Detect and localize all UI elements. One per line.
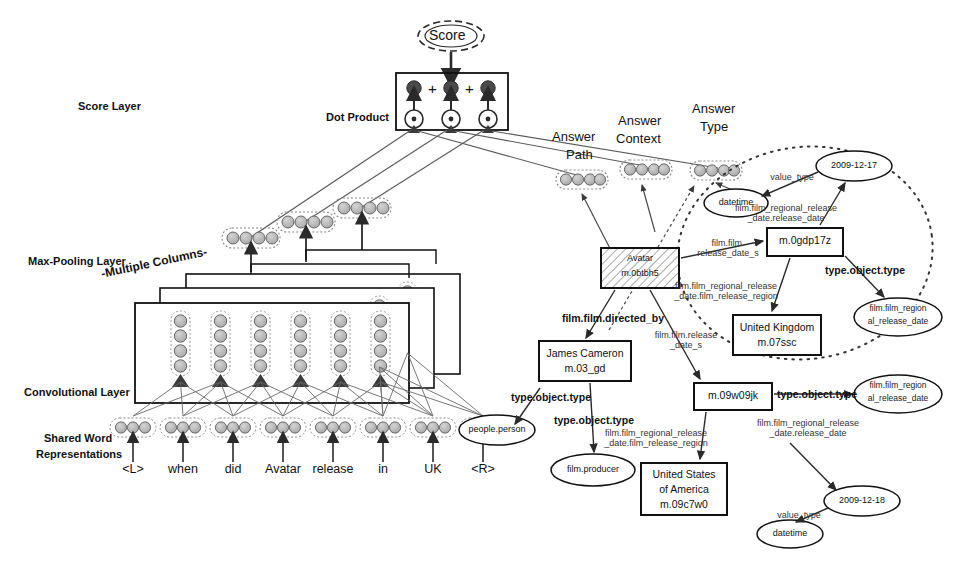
layer-label-score: Score Layer bbox=[78, 100, 141, 113]
entity-avatar-line1: Avatar bbox=[601, 253, 679, 263]
word-label-6: in bbox=[360, 462, 406, 476]
entity-united-states-line1: United States bbox=[641, 468, 727, 480]
answer-context-label-line1: Answer bbox=[618, 114, 661, 129]
layer-label-convolutional: Convolutional Layer bbox=[24, 386, 130, 399]
word-label-8: <R> bbox=[460, 462, 506, 476]
answer-type-label-line2: Type bbox=[700, 120, 728, 135]
rel-regional-release-region-usa: film.film_regional_release _date.film_re… bbox=[594, 428, 718, 449]
layer-label-shared-word-1: Shared Word bbox=[44, 432, 112, 445]
diagram-vector-layer bbox=[0, 0, 971, 570]
entity-avatar-line2: m.0btbh5 bbox=[601, 268, 679, 278]
answer-type-vector bbox=[690, 161, 742, 180]
rel-film-film-directed-by: film.film.directed_by bbox=[551, 312, 675, 324]
answer-path-vector bbox=[556, 170, 608, 189]
rel-film-film-release-date-s-top: film.film. release_date_s bbox=[688, 238, 768, 259]
rel-film-film-release-date-s-bottom: film.film.release _date_s bbox=[640, 330, 732, 351]
word-label-4: Avatar bbox=[256, 462, 310, 476]
type-film-regional-release-date-2-line2: al_release_date bbox=[854, 394, 942, 404]
rel-value-type-bottom: value_type bbox=[764, 510, 834, 520]
type-film-regional-release-date-2-line1: film.film_region bbox=[854, 381, 942, 391]
type-people-person-label: people.person bbox=[459, 424, 535, 434]
type-2009-12-17-label: 2009-12-17 bbox=[816, 160, 892, 170]
word-vector-7 bbox=[410, 418, 456, 462]
type-film-regional-release-date-1-line2: al_release_date bbox=[854, 317, 942, 327]
entity-united-kingdom-line2: m.07ssc bbox=[733, 336, 821, 348]
figure-canvas: Score Layer Max-Pooling Layer Convolutio… bbox=[0, 0, 971, 570]
entity-united-states-line2: of America bbox=[641, 483, 727, 495]
rel-regional-release-date-release-date-top: film.film_regional_release _date.release… bbox=[726, 203, 846, 224]
conv-column-1 bbox=[135, 303, 409, 403]
type-film-regional-release-date-1-line1: film.film_region bbox=[854, 304, 942, 314]
layer-label-shared-word-2: Representations bbox=[36, 448, 122, 461]
entity-m-0gdp17z-line1: m.0gdp17z bbox=[767, 234, 843, 246]
rel-type-object-type-09w09jk: type.object.type bbox=[770, 388, 864, 400]
type-film-producer-label: film.producer bbox=[551, 464, 635, 474]
word-vector-5 bbox=[310, 418, 356, 462]
answer-path-label-line2: Path bbox=[566, 148, 593, 163]
entity-m-09w09jk-line1: m.09w09jk bbox=[694, 389, 772, 401]
plus-sign-1: + bbox=[428, 80, 437, 97]
score-node-label: Score bbox=[429, 27, 466, 43]
word-label-3: did bbox=[210, 462, 256, 476]
entity-james-cameron-line1: James Cameron bbox=[539, 347, 631, 359]
rel-regional-release-region-uk: film.film_regional_release _date.film_re… bbox=[664, 281, 788, 302]
word-label-5: release bbox=[306, 462, 360, 476]
plus-sign-2: + bbox=[465, 80, 474, 97]
rel-regional-release-date-release-date-bottom: film.film_regional_release _date.release… bbox=[748, 418, 868, 439]
answer-context-label-line2: Context bbox=[616, 132, 661, 147]
pool-vector-3 bbox=[333, 198, 391, 250]
answer-type-label-line1: Answer bbox=[692, 102, 735, 117]
dot-product-box bbox=[396, 73, 508, 133]
max-pooling-vectors bbox=[222, 198, 391, 272]
word-label-7: UK bbox=[410, 462, 456, 476]
word-vector-4 bbox=[260, 418, 306, 462]
word-vector-2 bbox=[160, 418, 206, 462]
word-representation-vectors bbox=[110, 418, 506, 462]
entity-james-cameron-line2: m.03_gd bbox=[539, 362, 631, 374]
word-label-2: when bbox=[160, 462, 206, 476]
type-2009-12-18-label: 2009-12-18 bbox=[824, 495, 900, 505]
rel-type-object-type-jc-left: type.object.type bbox=[503, 391, 599, 403]
rel-type-object-type-0gdp17z: type.object.type bbox=[818, 264, 912, 276]
word-label-1: <L> bbox=[110, 462, 156, 476]
entity-united-kingdom-line1: United Kingdom bbox=[731, 321, 823, 333]
rel-value-type-top: value_type bbox=[757, 172, 827, 182]
type-datetime-bottom-label: datetime bbox=[758, 528, 822, 538]
answer-path-label-line1: Answer bbox=[552, 130, 595, 145]
dot-product-label: Dot Product bbox=[326, 111, 389, 124]
word-vector-3 bbox=[210, 418, 256, 462]
entity-united-states-line3: m.09c7w0 bbox=[641, 498, 727, 510]
word-vector-6 bbox=[360, 418, 406, 462]
answer-vectors bbox=[556, 160, 742, 189]
rel-type-object-type-jc-down: type.object.type bbox=[546, 414, 642, 426]
